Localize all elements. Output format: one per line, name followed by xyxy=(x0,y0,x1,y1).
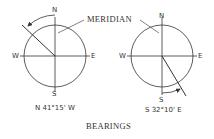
right-north-label: N xyxy=(159,12,164,20)
right-meridian-leader xyxy=(140,20,159,33)
left-meridian-leader xyxy=(58,20,84,33)
meridian-callout: MERIDIAN xyxy=(87,14,132,24)
right-compass xyxy=(127,17,197,96)
left-north-label: N xyxy=(52,6,57,14)
left-compass xyxy=(20,15,90,92)
right-south-label: S xyxy=(159,96,163,104)
left-east-label: E xyxy=(91,52,95,60)
left-bearing-arc xyxy=(28,15,55,26)
right-bearing-arc xyxy=(162,89,180,93)
left-south-label: S xyxy=(52,90,56,98)
right-east-label: E xyxy=(198,52,202,60)
right-bearing-line xyxy=(162,56,186,96)
right-bearing-caption: S 32°10' E xyxy=(145,106,182,114)
left-bearing-caption: N 41°15' W xyxy=(35,104,75,112)
left-west-label: W xyxy=(12,52,19,60)
figure-title: BEARINGS xyxy=(86,121,131,131)
right-west-label: W xyxy=(119,52,126,60)
